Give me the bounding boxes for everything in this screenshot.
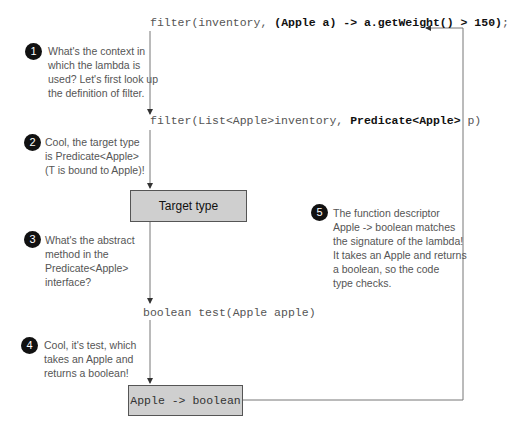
note-3-line: interface? xyxy=(45,275,135,289)
predicate-type: Predicate<Apple> xyxy=(350,114,460,127)
note-4-line: Cool, it's test, which xyxy=(44,338,136,352)
note-4-line: takes an Apple and xyxy=(44,352,136,366)
step-badge-3: 3 xyxy=(24,231,41,248)
target-type-label: Target type xyxy=(159,199,218,213)
lambda-body: (Apple a) -> a.getWeight() > 150) xyxy=(274,16,502,29)
note-1-line: which the lambda is xyxy=(48,58,158,72)
note-5-line: The function descriptor xyxy=(333,206,467,220)
note-5: The function descriptor Apple -> boolean… xyxy=(333,206,467,290)
note-1: What's the context in which the lambda i… xyxy=(48,44,158,100)
test-method-signature: boolean test(Apple apple) xyxy=(143,306,316,319)
lambda-suffix: ; xyxy=(502,16,509,29)
note-4-line: returns a boolean! xyxy=(44,366,136,380)
note-5-line: a boolean, so the code xyxy=(333,262,467,276)
step-badge-5: 5 xyxy=(311,204,328,221)
filter-def-suffix: p) xyxy=(461,114,482,127)
note-5-line: type checks. xyxy=(333,276,467,290)
note-5-line: the signature of the lambda! xyxy=(333,234,467,248)
function-descriptor-box: Apple -> boolean xyxy=(128,385,243,416)
filter-definition: filter(List<Apple>inventory, Predicate<A… xyxy=(150,114,481,127)
note-2-line: Cool, the target type xyxy=(45,135,145,149)
note-5-line: It takes an Apple and returns xyxy=(333,248,467,262)
note-1-line: What's the context in xyxy=(48,44,158,58)
step-badge-4: 4 xyxy=(21,337,38,354)
note-2-line: is Predicate<Apple> xyxy=(45,149,145,163)
target-type-box: Target type xyxy=(130,190,247,222)
note-3-line: Predicate<Apple> xyxy=(45,261,135,275)
note-2: Cool, the target type is Predicate<Apple… xyxy=(45,135,145,177)
filter-def-prefix: filter(List<Apple>inventory, xyxy=(150,114,350,127)
note-3-line: method in the xyxy=(45,247,135,261)
function-descriptor-label: Apple -> boolean xyxy=(130,394,240,407)
note-3: What's the abstract method in the Predic… xyxy=(45,233,135,289)
note-2-line: (T is bound to Apple)! xyxy=(45,163,145,177)
lambda-prefix: filter(inventory, xyxy=(150,16,274,29)
note-4: Cool, it's test, which takes an Apple an… xyxy=(44,338,136,380)
lambda-expression: filter(inventory, (Apple a) -> a.getWeig… xyxy=(150,16,509,29)
note-1-line: used? Let's first look up xyxy=(48,72,158,86)
step-badge-2: 2 xyxy=(24,134,41,151)
note-3-line: What's the abstract xyxy=(45,233,135,247)
note-5-line: Apple -> boolean matches xyxy=(333,220,467,234)
step-badge-1: 1 xyxy=(25,43,42,60)
note-1-line: the definition of filter. xyxy=(48,86,158,100)
